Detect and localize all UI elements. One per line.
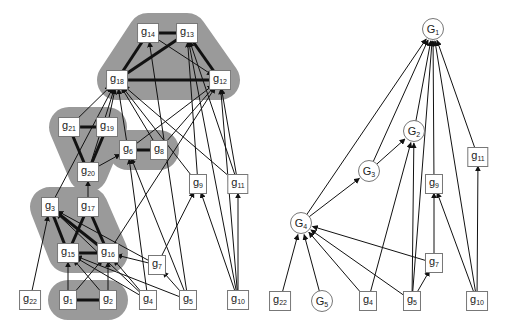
node-g9r: g9 xyxy=(425,174,443,194)
node-subscript: 11 xyxy=(237,182,244,189)
node-g10: g10 xyxy=(227,290,249,310)
node-subscript: 6 xyxy=(129,148,133,155)
diagram-canvas xyxy=(0,0,506,328)
directed-edge xyxy=(433,41,434,184)
node-subscript: 13 xyxy=(186,31,194,38)
node-g19: g19 xyxy=(96,117,118,137)
node-subscript: 5 xyxy=(189,298,193,305)
node-g18: g18 xyxy=(106,70,128,90)
directed-edge xyxy=(129,159,148,300)
node-g1: g1 xyxy=(59,290,77,310)
node-g21: g21 xyxy=(58,117,80,137)
node-subscript: 4 xyxy=(369,299,373,306)
directed-edge xyxy=(201,193,238,300)
node-subscript: 14 xyxy=(147,31,155,38)
node-g14: g14 xyxy=(137,23,159,43)
node-subscript: 1 xyxy=(435,29,439,36)
node-g5: G5 xyxy=(311,290,333,312)
node-subscript: 1 xyxy=(69,298,73,305)
node-g11: g11 xyxy=(227,174,248,194)
node-subscript: 9 xyxy=(199,182,203,189)
node-subscript: 22 xyxy=(279,299,287,306)
node-subscript: 11 xyxy=(477,155,484,162)
node-g5: g5 xyxy=(179,290,197,310)
node-subscript: 3 xyxy=(371,171,375,178)
node-g6: g6 xyxy=(119,140,137,160)
directed-edge xyxy=(108,88,215,253)
node-g8: g8 xyxy=(150,140,168,160)
node-g3: g3 xyxy=(41,197,59,217)
node-g15: g15 xyxy=(57,243,79,263)
node-subscript: 7 xyxy=(435,261,439,268)
node-subscript: 7 xyxy=(158,263,162,270)
node-subscript: 3 xyxy=(51,205,55,212)
node-g4: G4 xyxy=(290,212,312,234)
node-g7: g7 xyxy=(148,255,166,275)
node-g4r: g4 xyxy=(359,291,377,311)
node-g22: g22 xyxy=(19,290,41,310)
node-subscript: 21 xyxy=(68,125,76,132)
node-subscript: 18 xyxy=(116,78,124,85)
directed-edge xyxy=(437,192,477,301)
node-g10r: g10 xyxy=(466,291,488,311)
node-subscript: 20 xyxy=(87,170,95,177)
node-subscript: 5 xyxy=(413,299,417,306)
node-subscript: 5 xyxy=(324,301,328,308)
node-subscript: 4 xyxy=(149,298,153,305)
node-subscript: 19 xyxy=(106,125,114,132)
directed-edge xyxy=(222,89,238,184)
directed-edge xyxy=(477,166,478,301)
node-subscript: 2 xyxy=(416,131,420,138)
node-subscript: 17 xyxy=(87,205,95,212)
directed-edge xyxy=(437,40,478,157)
node-subscript: 8 xyxy=(160,148,164,155)
node-g17: g17 xyxy=(77,197,99,217)
node-subscript: 10 xyxy=(237,298,245,305)
node-g1: G1 xyxy=(422,18,444,40)
node-subscript: 2 xyxy=(109,298,113,305)
directed-edge xyxy=(221,89,238,300)
node-g11r: g11 xyxy=(467,147,488,167)
node-subscript: 22 xyxy=(29,298,37,305)
node-g7r: g7 xyxy=(425,253,443,273)
node-subscript: 12 xyxy=(219,78,227,85)
node-g4: g4 xyxy=(139,290,157,310)
node-g22r: g22 xyxy=(269,291,291,311)
node-subscript: 4 xyxy=(303,223,307,230)
node-g12: g12 xyxy=(209,70,231,90)
node-subscript: 9 xyxy=(435,182,439,189)
node-g16: g16 xyxy=(97,243,119,263)
node-subscript: 15 xyxy=(67,251,75,258)
node-g9: g9 xyxy=(189,174,207,194)
node-g2: g2 xyxy=(99,290,117,310)
node-g3: G3 xyxy=(358,160,380,182)
node-g20: g20 xyxy=(77,162,99,182)
node-g13: g13 xyxy=(176,23,198,43)
node-subscript: 16 xyxy=(107,251,115,258)
node-g2: G2 xyxy=(403,120,425,142)
node-g5r: g5 xyxy=(403,291,421,311)
directed-edge xyxy=(131,158,188,300)
node-subscript: 10 xyxy=(476,299,484,306)
